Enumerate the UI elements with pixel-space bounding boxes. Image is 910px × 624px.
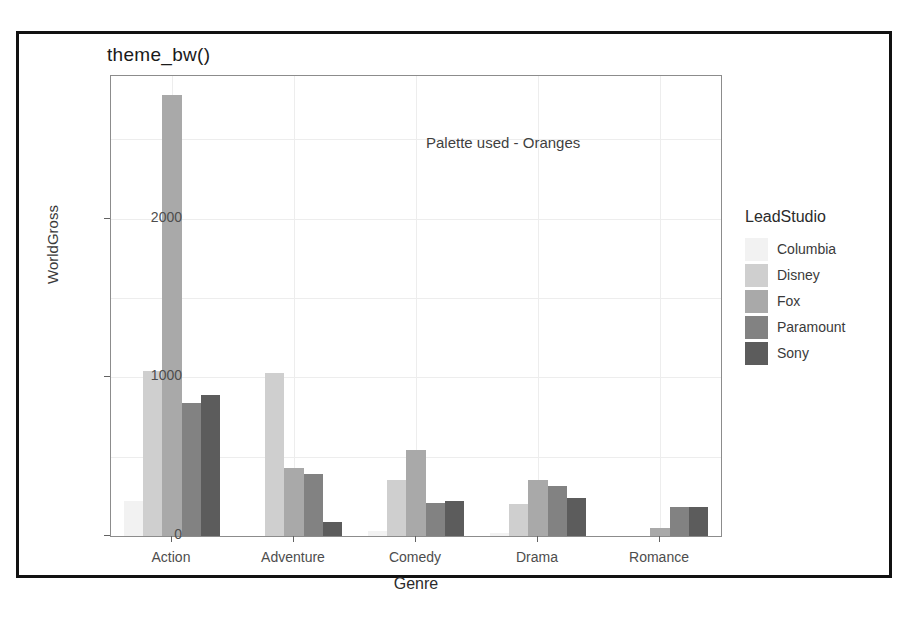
bar-drama-paramount [548,486,567,536]
bar-comedy-fox [406,450,425,536]
palette-annotation: Palette used - Oranges [426,134,580,151]
bar-action-disney [143,371,162,536]
bar-adventure-paramount [304,474,323,536]
x-tick-mark [659,536,660,542]
y-tick-label: 1000 [112,367,182,383]
legend-label: Disney [777,267,820,283]
y-axis-title: WorldGross [44,175,61,315]
legend-label: Sony [777,345,809,361]
legend-label: Paramount [777,319,845,335]
y-tick-mark [104,535,110,536]
bar-drama-fox [528,480,547,536]
bar-comedy-disney [387,480,406,536]
page-title: theme_bw() [107,44,210,66]
x-tick-label-drama: Drama [467,549,607,565]
bar-comedy-sony [445,501,464,536]
bar-romance-fox [650,528,669,536]
y-tick-mark [104,218,110,219]
plot-panel: Palette used - Oranges [110,75,722,537]
bar-adventure-sony [323,522,342,536]
x-tick-mark [415,536,416,542]
gridline-vertical [660,76,661,536]
bar-action-sony [201,395,220,536]
legend-swatch-paramount [745,316,768,339]
bar-drama-disney [509,504,528,536]
legend-item-sony: Sony [745,340,845,366]
legend-label: Fox [777,293,800,309]
legend-item-disney: Disney [745,262,845,288]
bar-romance-sony [689,507,708,536]
bar-comedy-paramount [426,503,445,536]
bar-comedy-columbia [368,531,387,536]
x-tick-label-comedy: Comedy [345,549,485,565]
legend-swatch-columbia [745,238,768,261]
x-tick-label-adventure: Adventure [223,549,363,565]
bar-drama-sony [567,498,586,536]
bar-action-fox [162,95,181,536]
bar-drama-columbia [490,533,509,536]
bar-action-paramount [182,403,201,536]
legend-label: Columbia [777,241,836,257]
x-tick-label-romance: Romance [589,549,729,565]
x-tick-mark [537,536,538,542]
x-tick-label-action: Action [101,549,241,565]
y-tick-label: 2000 [112,209,182,225]
bar-adventure-fox [284,468,303,536]
bar-adventure-disney [265,373,284,536]
legend-item-fox: Fox [745,288,845,314]
legend-item-paramount: Paramount [745,314,845,340]
legend: LeadStudio ColumbiaDisneyFoxParamountSon… [745,208,845,366]
legend-swatch-fox [745,290,768,313]
x-axis-title: Genre [0,575,832,593]
bar-romance-paramount [670,507,689,536]
x-tick-mark [171,536,172,542]
x-tick-mark [293,536,294,542]
y-tick-mark [104,376,110,377]
figure-root: theme_bw() Palette used - Oranges WorldG… [0,0,910,624]
legend-item-columbia: Columbia [745,236,845,262]
legend-swatch-disney [745,264,768,287]
legend-swatch-sony [745,342,768,365]
legend-title: LeadStudio [745,208,845,226]
